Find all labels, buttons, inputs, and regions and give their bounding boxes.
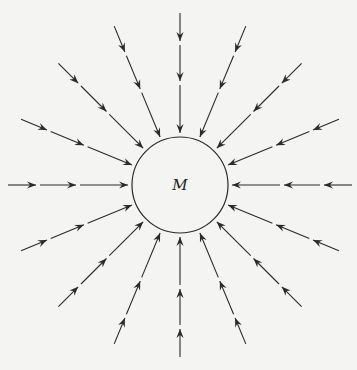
field-line-segment — [228, 205, 272, 223]
field-line-segment — [109, 222, 143, 256]
field-line-segment — [142, 233, 160, 277]
mass-label: M — [171, 176, 188, 194]
field-line-segment — [88, 205, 132, 223]
field-line-segment — [200, 233, 218, 277]
field-line-segment — [109, 114, 143, 148]
field-line-segment — [142, 93, 160, 137]
field-diagram: M — [0, 0, 357, 370]
field-line-segment — [217, 114, 251, 148]
field-line-segment — [228, 147, 272, 165]
field-line-segment — [217, 222, 251, 256]
field-lines-canvas: M — [0, 0, 357, 370]
field-line-segment — [88, 147, 132, 165]
field-line-segment — [200, 93, 218, 137]
